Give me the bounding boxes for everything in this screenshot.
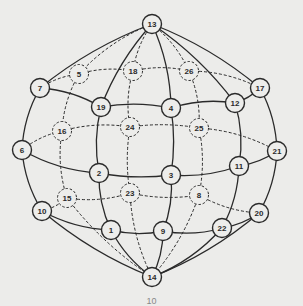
node-1: 1 (102, 221, 121, 240)
node-12: 12 (226, 94, 245, 113)
nodes-layer: 1234567891011121314151617181920212223242… (13, 15, 287, 287)
node-label: 15 (63, 194, 72, 203)
node-11: 11 (230, 157, 249, 176)
node-24: 24 (121, 118, 140, 137)
node-label: 10 (38, 207, 47, 216)
node-13: 13 (143, 15, 162, 34)
node-16: 16 (53, 122, 72, 141)
node-6: 6 (13, 141, 32, 160)
node-7: 7 (31, 79, 50, 98)
node-9: 9 (154, 222, 173, 241)
node-4: 4 (162, 99, 181, 118)
edge-2-3 (99, 173, 171, 177)
node-label: 11 (235, 162, 244, 171)
node-5: 5 (70, 65, 89, 84)
node-label: 22 (218, 224, 227, 233)
node-10: 10 (33, 202, 52, 221)
edge-23-8 (130, 193, 199, 197)
node-label: 13 (148, 20, 157, 29)
node-label: 16 (58, 127, 67, 136)
node-label: 19 (97, 103, 106, 112)
node-label: 25 (195, 124, 204, 133)
edges-layer (22, 24, 277, 277)
edge-13-4 (152, 24, 171, 108)
node-label: 7 (38, 84, 43, 93)
node-19: 19 (92, 98, 111, 117)
edge-23-14 (130, 193, 152, 277)
node-14: 14 (143, 268, 162, 287)
edge-24-25 (130, 125, 199, 128)
edge-10-1 (42, 211, 111, 230)
node-label: 26 (185, 67, 194, 76)
node-label: 18 (129, 67, 138, 76)
node-3: 3 (162, 166, 181, 185)
node-label: 1 (109, 226, 114, 235)
node-label: 9 (161, 227, 166, 236)
edge-16-15 (60, 131, 67, 198)
node-8: 8 (190, 186, 209, 205)
node-label: 24 (126, 123, 135, 132)
edge-3-11 (171, 166, 239, 176)
edge-16-24 (62, 125, 130, 131)
node-label: 20 (255, 209, 264, 218)
node-label: 8 (197, 191, 202, 200)
node-23: 23 (121, 184, 140, 203)
figure-caption: 10 (0, 296, 303, 306)
node-25: 25 (190, 119, 209, 138)
node-18: 18 (124, 62, 143, 81)
edge-19-4 (101, 104, 171, 108)
node-label: 2 (97, 169, 102, 178)
edge-25-8 (199, 128, 202, 195)
edge-10-14 (42, 211, 152, 277)
node-label: 17 (256, 84, 265, 93)
node-label: 6 (20, 146, 25, 155)
node-26: 26 (180, 62, 199, 81)
node-17: 17 (251, 79, 270, 98)
node-20: 20 (250, 204, 269, 223)
node-2: 2 (90, 164, 109, 183)
node-label: 23 (126, 189, 135, 198)
sphere-graph-canvas: 1234567891011121314151617181920212223242… (0, 0, 303, 306)
edge-25-21 (199, 128, 277, 151)
node-label: 5 (77, 70, 82, 79)
node-label: 4 (169, 104, 174, 113)
node-15: 15 (58, 189, 77, 208)
node-label: 14 (148, 273, 157, 282)
node-21: 21 (268, 142, 287, 161)
sphere-graph-diagram: 1234567891011121314151617181920212223242… (0, 0, 303, 306)
node-label: 3 (169, 171, 174, 180)
node-label: 21 (273, 147, 282, 156)
node-label: 12 (231, 99, 240, 108)
node-22: 22 (213, 219, 232, 238)
